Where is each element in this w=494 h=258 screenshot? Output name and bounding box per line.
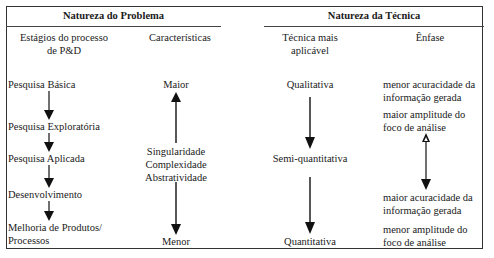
column-header-technique-line2: aplicável (270, 44, 350, 57)
stage-improvement-line2: Processos (8, 234, 102, 247)
stage-basic-research: Pesquisa Básica (8, 78, 75, 91)
arrow-up-icon (171, 92, 181, 143)
emphasis-block-4-line2: foco de análise (383, 236, 468, 249)
emphasis-block-2: maior amplitude do foco de análise (383, 108, 465, 134)
group-header-problem: Natureza do Problema (6, 9, 221, 22)
arrow-down-icon (44, 133, 54, 152)
column-header-stages: Estágios do processo de P&D (8, 31, 120, 57)
arrow-down-icon (305, 97, 315, 149)
arrow-down-icon (44, 165, 54, 188)
stage-applied-research: Pesquisa Aplicada (8, 152, 85, 165)
emphasis-block-3-line1: maior acuracidade da (383, 191, 473, 204)
double-arrow-icon (421, 133, 431, 190)
group-header-technique: Natureza da Técnica (264, 9, 484, 22)
characteristic-singularity: Singularidade (130, 145, 222, 158)
problem-header-divider (6, 26, 221, 27)
column-header-emphasis: Ênfase (405, 31, 455, 44)
emphasis-block-1: menor acuracidade da informação gerada (383, 78, 475, 104)
technique-quantitative: Quantitativa (265, 235, 355, 248)
stage-improvement-line1: Melhoria de Produtos/ (8, 221, 102, 234)
technique-qualitative: Qualitativa (265, 78, 355, 91)
emphasis-block-2-line1: maior amplitude do (383, 108, 465, 121)
stage-improvement: Melhoria de Produtos/ Processos (8, 221, 102, 247)
technique-header-divider (264, 26, 484, 27)
characteristics-top: Maior (146, 78, 206, 91)
arrow-down-icon (171, 182, 181, 235)
emphasis-block-1-line1: menor acuracidade da (383, 78, 475, 91)
column-header-technique: Técnica mais aplicável (270, 31, 350, 57)
characteristics-middle: Singularidade Complexidade Abstratividad… (130, 145, 222, 184)
characteristics-bottom: Menor (146, 235, 206, 248)
emphasis-block-4: menor amplitude do foco de análise (383, 223, 468, 249)
arrow-down-icon (44, 91, 54, 120)
column-header-stages-line2: de P&D (8, 44, 120, 57)
stage-development: Desenvolvimento (8, 188, 82, 201)
emphasis-block-3: maior acuracidade da informação gerada (383, 191, 473, 217)
column-header-characteristics: Características (140, 31, 220, 44)
emphasis-block-3-line2: informação gerada (383, 204, 473, 217)
column-header-technique-line1: Técnica mais (270, 31, 350, 44)
emphasis-block-4-line1: menor amplitude do (383, 223, 468, 236)
column-header-stages-line1: Estágios do processo (8, 31, 120, 44)
technique-semi-quantitative: Semi-quantitativa (260, 152, 360, 165)
arrow-down-icon (44, 201, 54, 221)
emphasis-block-1-line2: informação gerada (383, 91, 475, 104)
characteristic-complexity: Complexidade (130, 158, 222, 171)
arrow-down-icon (305, 177, 315, 234)
stage-exploratory-research: Pesquisa Exploratória (8, 120, 100, 133)
